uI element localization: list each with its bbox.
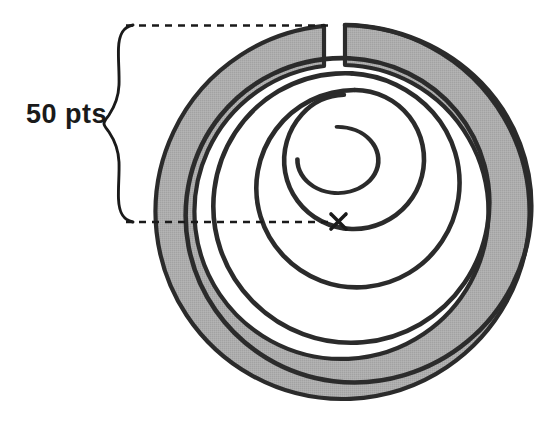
spiral-diagram-figure: 50 pts <box>0 0 559 427</box>
dimension-label-50pts: 50 pts <box>26 101 107 128</box>
figure-canvas <box>0 0 559 427</box>
